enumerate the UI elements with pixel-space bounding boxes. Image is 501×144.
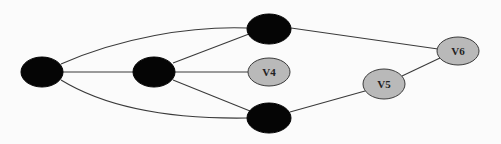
node-v5: V5 [363,69,405,99]
node-v4-label: V4 [262,66,276,78]
node-v4: V4 [248,58,290,86]
node-v5-label: V5 [377,78,391,90]
node-v6-label: V6 [451,45,465,57]
graph-diagram: V4 V5 V6 [0,0,501,144]
node-v6: V6 [437,37,479,65]
node-n2 [133,57,175,87]
node-n1 [21,57,63,87]
node-n5 [247,103,291,133]
node-n3 [247,14,291,44]
